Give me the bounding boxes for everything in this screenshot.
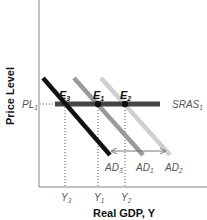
y-axis-title: Price Level [4,67,16,125]
ad3-label: AD3 [104,162,123,174]
y1-label: Y1 [94,192,105,204]
ad2-label: AD2 [164,162,183,174]
sras1-label: SRAS1 [172,99,203,111]
y2-label: Y2 [121,192,132,204]
e1-label: E1 [93,89,104,102]
e2-label: E2 [120,89,131,102]
ad1-label: AD1 [135,162,154,174]
e3-label: E3 [59,89,70,102]
ad-shift-diagram: E3 E1 E2 PL1 SRAS1 AD3 AD1 AD2 Y3 Y1 Y2 … [0,0,207,220]
pl1-label: PL1 [22,99,38,111]
x-axis-title: Real GDP, Y [93,207,156,219]
y3-label: Y3 [61,192,72,204]
